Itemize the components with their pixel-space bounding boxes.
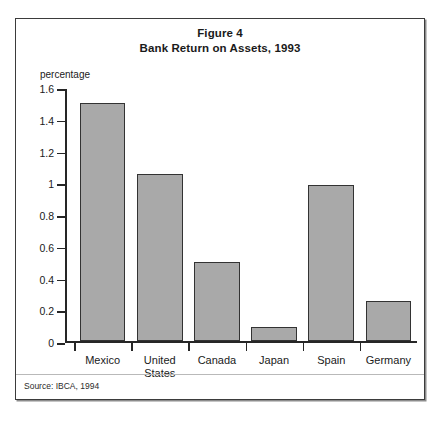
y-axis-unit-label: percentage	[40, 69, 90, 81]
y-axis-tick-label: 1.2	[39, 147, 54, 159]
plot-area: 00.20.40.60.811.21.41.6 MexicoUnited Sta…	[65, 89, 417, 343]
figure-number: Figure 4	[16, 26, 424, 41]
y-axis-tick-label: 1.6	[39, 83, 54, 95]
y-axis-tick-label: 0	[48, 337, 54, 349]
x-axis-tick-mark	[188, 343, 190, 351]
bar	[80, 103, 126, 341]
x-axis-category-label: United States	[144, 354, 176, 380]
bar	[366, 301, 412, 341]
x-axis-line	[65, 341, 417, 343]
y-axis-tick-mark	[57, 280, 65, 282]
x-axis-tick-mark	[74, 343, 76, 351]
y-axis-tick-mark	[57, 184, 65, 186]
y-axis-tick-mark	[57, 153, 65, 155]
figure-title-block: Figure 4 Bank Return on Assets, 1993	[16, 26, 424, 56]
source-divider	[16, 374, 424, 375]
bar	[194, 262, 240, 341]
source-note: Source: IBCA, 1994	[24, 381, 99, 392]
bar	[251, 327, 297, 341]
figure-title: Bank Return on Assets, 1993	[16, 41, 424, 56]
x-axis-tick-mark	[246, 343, 248, 351]
x-axis-category-label: Japan	[259, 354, 289, 367]
y-axis-line	[65, 89, 67, 343]
x-axis-tick-mark	[303, 343, 305, 351]
y-axis-tick-mark	[57, 343, 65, 345]
x-axis-category-label: Spain	[317, 354, 345, 367]
y-axis-tick-label: 0.8	[39, 210, 54, 222]
bar	[308, 185, 354, 341]
y-axis-tick-mark	[57, 311, 65, 313]
x-axis-tick-mark	[131, 343, 133, 351]
y-axis-tick-mark	[57, 248, 65, 250]
x-axis-category-label: Canada	[198, 354, 237, 367]
x-axis-tick-mark	[360, 343, 362, 351]
figure-frame: Figure 4 Bank Return on Assets, 1993 per…	[15, 18, 425, 400]
y-axis-tick-label: 0.6	[39, 242, 54, 254]
x-axis-category-label: Mexico	[85, 354, 120, 367]
y-axis-tick-mark	[57, 89, 65, 91]
y-axis-tick-mark	[57, 121, 65, 123]
y-axis-tick-mark	[57, 216, 65, 218]
x-axis-category-label: Germany	[366, 354, 411, 367]
y-axis-tick-label: 1.4	[39, 115, 54, 127]
y-axis-tick-label: 0.2	[39, 305, 54, 317]
y-axis-tick-label: 1	[48, 178, 54, 190]
bar	[137, 174, 183, 341]
y-axis-tick-label: 0.4	[39, 274, 54, 286]
